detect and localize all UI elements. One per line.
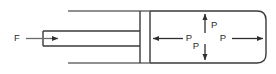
force-label: F	[14, 32, 20, 43]
pressure-label-left: P	[186, 32, 192, 43]
pressure-label-right: P	[220, 32, 226, 43]
pressure-arrows-group: P P P P	[153, 14, 263, 60]
vessel-outline	[68, 11, 266, 63]
hydraulic-pressure-diagram: F P P P P	[0, 0, 276, 74]
pressure-label-down: P	[193, 40, 199, 51]
pressure-label-up: P	[211, 19, 217, 30]
force-arrow-group: F	[14, 32, 58, 43]
diagram-canvas: F P P P P	[0, 0, 276, 74]
chamber-body-path	[150, 11, 266, 63]
